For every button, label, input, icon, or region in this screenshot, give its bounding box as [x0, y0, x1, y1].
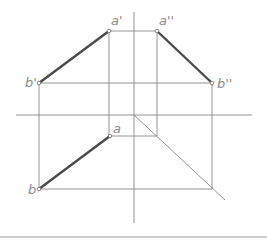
label-a-front: a' [111, 13, 123, 28]
label-b-top: b [28, 182, 36, 197]
label-a-top: a [113, 121, 121, 136]
label-b-front: b' [25, 75, 37, 90]
segment-front-view [39, 31, 109, 83]
point-b-front [37, 81, 41, 85]
segment-side-view [157, 31, 212, 83]
label-b-side: b'' [217, 76, 232, 91]
point-b-side [210, 81, 214, 85]
point-a-side [155, 29, 159, 33]
diagonal-45-line [134, 115, 225, 200]
label-a-side: a'' [159, 13, 174, 28]
point-b-top [37, 187, 41, 191]
projection-diagram: a' a'' b' b'' a b [0, 0, 267, 242]
point-a-front [107, 29, 111, 33]
point-a-top [108, 134, 112, 138]
segment-top-view [39, 136, 110, 189]
